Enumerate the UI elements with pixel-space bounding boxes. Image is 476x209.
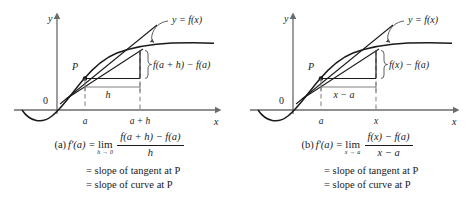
curve-label-leader-arrow: [388, 21, 404, 43]
secant-line: [66, 49, 143, 99]
tick-label-x: x: [373, 116, 379, 126]
panel-b: y x 0 P x − a f(x) − f(a) y = f(x) a x: [238, 0, 476, 209]
panel-a: y x 0 P h f(a +: [0, 0, 238, 209]
curve-label: y = f(x): [407, 14, 439, 26]
tick-label-a-plus-h: a + h: [130, 116, 151, 126]
panel-a-fraction: f(a + h) − f(a) h: [117, 131, 183, 158]
function-curve: [22, 43, 214, 121]
run-label: x − a: [332, 89, 354, 100]
rise-label: f(x) − f(a): [389, 59, 430, 71]
panel-a-limit-sub: h → 0: [97, 149, 113, 156]
rise-brace: [381, 51, 388, 79]
panel-a-tag: (a): [54, 139, 66, 151]
panel-b-fraction: f(x) − f(a) x − a: [365, 131, 413, 158]
origin-label: 0: [279, 95, 284, 106]
curve-label-leader-arrow: [152, 21, 168, 43]
panel-a-denominator: h: [145, 146, 156, 159]
panel-b-lhs: f′(a) =: [316, 139, 343, 151]
panel-a-limit: lim h → 0: [97, 138, 113, 157]
derivative-figure: y x 0 P h f(a +: [0, 0, 476, 209]
y-axis-label: y: [283, 13, 289, 24]
panel-a-lhs: f′(a) =: [68, 139, 95, 151]
panel-a-line3: = slope of curve at P: [0, 179, 238, 191]
tick-label-a: a: [319, 116, 324, 126]
panel-b-limit: lim x → a: [345, 138, 361, 157]
point-p-label: P: [307, 61, 314, 72]
y-axis-label: y: [47, 13, 53, 24]
panel-b-line2: = slope of tangent at P: [238, 165, 476, 177]
panel-a-graph: y x 0 P h f(a +: [0, 0, 238, 130]
panel-a-numerator: f(a + h) − f(a): [117, 131, 183, 144]
panel-b-graph: y x 0 P x − a f(x) − f(a) y = f(x) a x: [238, 0, 476, 130]
x-axis-label: x: [451, 116, 457, 127]
panel-b-numerator: f(x) − f(a): [365, 131, 413, 144]
origin-label: 0: [43, 95, 48, 106]
panel-a-equation: (a) f′(a) = lim h → 0 f(a + h) − f(a) h: [0, 128, 238, 162]
panel-b-denominator: x − a: [374, 146, 402, 159]
panel-b-equation: (b) f′(a) = lim x → a f(x) − f(a) x − a: [238, 128, 476, 162]
x-axis-label: x: [213, 116, 219, 127]
rise-label: f(a + h) − f(a): [153, 59, 211, 71]
panel-b-tag: (b): [301, 139, 313, 151]
panel-a-caption: (a) f′(a) = lim h → 0 f(a + h) − f(a) h …: [0, 128, 238, 191]
rise-brace: [145, 51, 152, 79]
tick-label-a: a: [83, 116, 88, 126]
panel-b-limit-sub: x → a: [345, 149, 361, 156]
panel-b-line3: = slope of curve at P: [238, 179, 476, 191]
run-label: h: [106, 89, 111, 100]
point-p-label: P: [71, 61, 78, 72]
panel-b-caption: (b) f′(a) = lim x → a f(x) − f(a) x − a …: [238, 128, 476, 191]
curve-label: y = f(x): [171, 14, 203, 26]
function-curve: [258, 43, 452, 121]
panel-a-line2: = slope of tangent at P: [0, 165, 238, 177]
